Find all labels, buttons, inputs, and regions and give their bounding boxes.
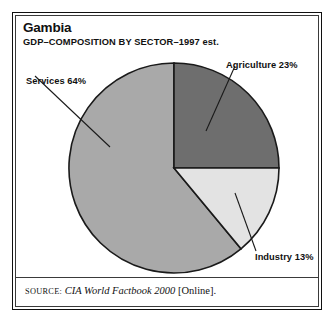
figure-frame: Gambia GDP–COMPOSITION BY SECTOR–1997 es… — [12, 12, 322, 310]
source-suffix: [Online]. — [178, 285, 216, 296]
pie-slice-agriculture[interactable] — [174, 63, 279, 168]
source-publication: CIA World Factbook 2000 — [65, 285, 176, 296]
pie-chart — [13, 13, 321, 275]
pie-chart-svg — [13, 13, 321, 275]
source-prefix: SOURCE: — [25, 287, 62, 296]
pie-label-industry: Industry 13% — [255, 252, 313, 262]
pie-slices — [69, 63, 279, 273]
pie-label-services: Services 64% — [26, 76, 86, 86]
source-divider — [16, 277, 318, 278]
source-note: SOURCE: CIA World Factbook 2000 [Online]… — [25, 285, 216, 296]
pie-label-agriculture: Agriculture 23% — [226, 60, 298, 70]
